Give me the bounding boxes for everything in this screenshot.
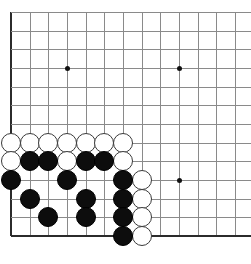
grid-line-horizontal (11, 68, 251, 69)
star-point-icon (177, 66, 182, 71)
grid-line-horizontal (11, 124, 251, 125)
white-stone[interactable] (1, 133, 21, 153)
white-stone[interactable] (132, 207, 152, 227)
star-point-icon (65, 66, 70, 71)
black-stone[interactable] (76, 207, 96, 227)
grid-line-horizontal (11, 12, 251, 13)
white-stone[interactable] (132, 170, 152, 190)
white-stone[interactable] (132, 226, 152, 246)
black-stone[interactable] (113, 226, 133, 246)
go-board[interactable] (0, 0, 251, 264)
black-stone[interactable] (1, 170, 21, 190)
star-point-icon (177, 178, 182, 183)
black-stone[interactable] (76, 189, 96, 209)
white-stone[interactable] (38, 133, 58, 153)
grid-line-horizontal (11, 49, 251, 50)
white-stone[interactable] (76, 133, 96, 153)
black-stone[interactable] (57, 170, 77, 190)
black-stone[interactable] (113, 170, 133, 190)
black-stone[interactable] (20, 151, 40, 171)
grid-line-horizontal (11, 87, 251, 88)
white-stone[interactable] (57, 133, 77, 153)
black-stone[interactable] (76, 151, 96, 171)
white-stone[interactable] (113, 133, 133, 153)
black-stone[interactable] (113, 189, 133, 209)
white-stone[interactable] (132, 189, 152, 209)
grid-line-horizontal (11, 105, 251, 106)
white-stone[interactable] (20, 133, 40, 153)
grid-line-horizontal (11, 31, 251, 32)
black-stone[interactable] (20, 189, 40, 209)
white-stone[interactable] (94, 133, 114, 153)
